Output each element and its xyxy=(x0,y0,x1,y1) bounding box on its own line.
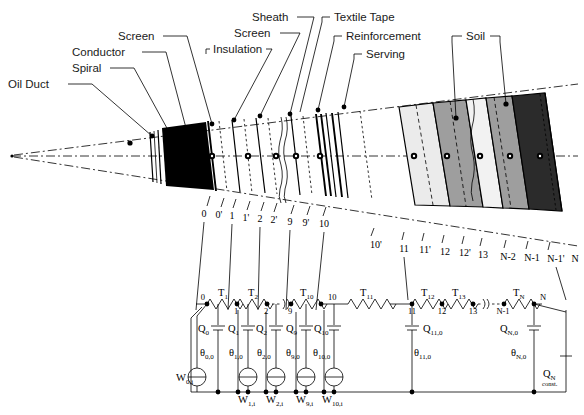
boundary-number-1p: 1' xyxy=(243,212,250,223)
boundary-number-2p: 2' xyxy=(271,214,278,225)
diagram-svg: Oil Duct Spiral Conductor Screen Insulat… xyxy=(0,0,584,415)
callout-label-screen-inner: Screen xyxy=(118,30,154,42)
circuit-node-label-12: 12 xyxy=(438,306,447,316)
boundary-number-10: 10 xyxy=(319,218,329,229)
circuit-node-label-2: 2 xyxy=(264,306,268,316)
callout-label-textile-tape: Textile Tape xyxy=(334,11,395,23)
node-dot-10 xyxy=(319,302,324,307)
apex-point xyxy=(10,154,13,157)
boundary-number-10p: 10' xyxy=(370,239,382,250)
boundary-number-12: 12 xyxy=(440,246,450,257)
boundary-number-N-1: N-1 xyxy=(524,252,540,263)
boundary-number-9: 9 xyxy=(288,216,293,227)
boundary-number-11: 11 xyxy=(399,243,409,254)
boundary-number-12p: 12' xyxy=(459,247,471,258)
boundary-number-0p: 0' xyxy=(216,209,223,220)
circuit-node-label-1: 1 xyxy=(234,306,238,316)
callout-label-soil: Soil xyxy=(466,30,485,42)
callout-label-screen-outer: Screen xyxy=(234,27,270,39)
boundary-number-2: 2 xyxy=(258,213,263,224)
callout-label-spiral: Spiral xyxy=(72,62,101,74)
callout-label-insulation: Insulation xyxy=(213,43,262,55)
const-source-caption: const. xyxy=(542,380,558,387)
circuit-node-label-11: 11 xyxy=(408,306,416,316)
figure-root: Oil Duct Spiral Conductor Screen Insulat… xyxy=(0,0,584,415)
boundary-number-13: 13 xyxy=(478,249,488,260)
circuit-node-label-0: 0 xyxy=(201,292,205,302)
circuit-node-label-10: 10 xyxy=(328,292,337,302)
circuit-node-label-13: 13 xyxy=(469,306,478,316)
boundary-number-9p: 9' xyxy=(303,217,310,228)
callout-label-oil-duct: Oil Duct xyxy=(8,78,50,90)
boundary-number-N-1p: N-1' xyxy=(547,253,565,264)
boundary-number-N-2: N-2 xyxy=(500,251,516,262)
callout-label-reinforcement: Reinforcement xyxy=(346,30,422,42)
layer-conductor xyxy=(162,122,214,190)
boundary-number-11p: 11' xyxy=(419,244,431,255)
callout-label-sheath: Sheath xyxy=(252,11,288,23)
circuit-node-label-N-1: N-1 xyxy=(496,306,509,316)
circuit-node-label-9: 9 xyxy=(288,306,292,316)
boundary-number-1: 1 xyxy=(230,210,235,221)
boundary-number-N: N xyxy=(571,253,578,264)
circuit-node-label-N: N xyxy=(540,292,546,302)
boundary-number-0: 0 xyxy=(202,208,207,219)
callout-label-serving: Serving xyxy=(366,48,405,60)
callout-label-conductor: Conductor xyxy=(72,46,125,58)
